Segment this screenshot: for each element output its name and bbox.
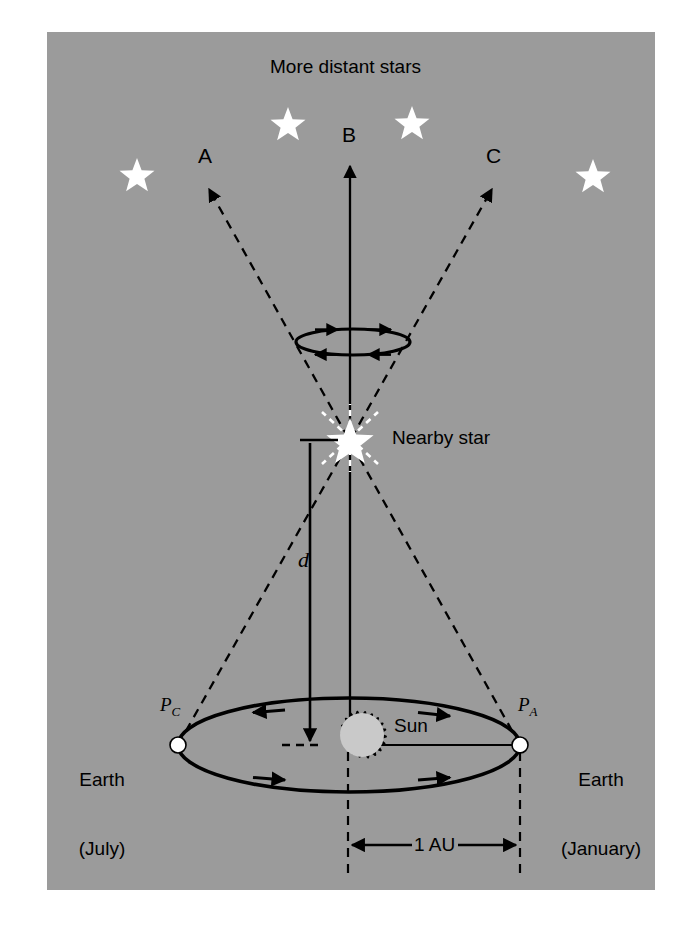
figure-title: More distant stars <box>270 56 421 78</box>
earth-january-label: Earth (January) <box>546 722 656 906</box>
distance-label: d <box>298 547 309 573</box>
ray-label-c: C <box>486 144 501 168</box>
nearby-star-label: Nearby star <box>392 427 490 449</box>
orbit-direction-arrow <box>253 778 285 781</box>
parallax-point-a-label: PA <box>518 694 538 720</box>
distant-star-icon <box>395 106 430 139</box>
earth-july-label: Earth (July) <box>56 722 148 906</box>
ray-label-b: B <box>342 123 356 147</box>
earth-marker-january <box>512 737 528 753</box>
distant-star-icon <box>576 159 611 192</box>
parallax-figure: More distant stars A B C Nearby star d S… <box>0 0 692 927</box>
sight-line-c <box>178 189 492 745</box>
ray-label-a: A <box>198 144 212 168</box>
sun-icon <box>340 712 386 758</box>
baseline-label: 1 AU <box>414 834 455 856</box>
sight-line-a <box>209 189 520 745</box>
apparent-motion-ellipse <box>296 329 410 355</box>
distant-star-icon <box>120 158 155 191</box>
parallax-point-c-label: PC <box>160 694 180 720</box>
distant-star-icon <box>271 107 306 140</box>
orbit-direction-arrow <box>253 710 285 713</box>
earth-marker-july <box>170 737 186 753</box>
orbit-direction-arrow <box>418 778 450 781</box>
sun-label: Sun <box>394 715 428 737</box>
